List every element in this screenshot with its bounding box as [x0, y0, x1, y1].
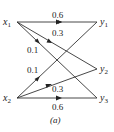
node-x2: x2 — [2, 92, 11, 105]
weight-x2-y3: 0.6 — [52, 102, 64, 112]
weight-x1-y1: 0.6 — [52, 10, 64, 20]
weight-x2-y1: 0.1 — [27, 65, 38, 75]
caption: (a) — [50, 115, 61, 125]
node-y1: y1 — [99, 16, 108, 29]
weight-x1-y2: 0.3 — [52, 28, 64, 38]
arrow-icon — [56, 96, 62, 101]
bipartite-graph: x1 x2 y1 y2 y3 0.6 0.3 0.1 0.1 0.3 0.6 (… — [0, 0, 114, 132]
arrow-icon — [56, 20, 62, 25]
weight-x1-y3: 0.1 — [27, 45, 38, 55]
node-y2: y2 — [99, 63, 108, 76]
arrow-icon — [47, 38, 53, 43]
node-x1: x1 — [2, 16, 11, 29]
node-y3: y3 — [99, 92, 108, 105]
weight-x2-y2: 0.3 — [52, 84, 64, 94]
